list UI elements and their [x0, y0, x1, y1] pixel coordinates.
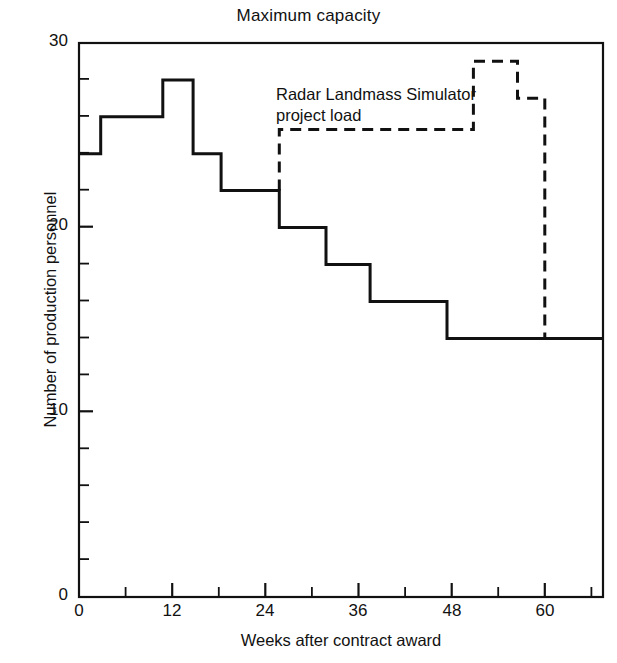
x-axis-ticks [126, 583, 592, 597]
figure-container: Maximum capacity Radar Landmass Simulato… [0, 0, 617, 663]
plot-frame [79, 43, 603, 597]
y-axis-title: Number of production personnel [41, 30, 60, 590]
y-axis-ticks [79, 79, 93, 559]
x-tick-label-36: 36 [338, 601, 378, 621]
x-tick-label-48: 48 [432, 601, 472, 621]
x-tick-label-24: 24 [245, 601, 285, 621]
x-tick-label-12: 12 [152, 601, 192, 621]
plot-canvas [0, 0, 617, 663]
series-solid-production-load [79, 80, 603, 339]
x-tick-label-0: 0 [59, 601, 99, 621]
x-axis-title: Weeks after contract award [79, 631, 603, 650]
series-dashed-simulator-load [279, 61, 545, 338]
x-tick-label-60: 60 [525, 601, 565, 621]
